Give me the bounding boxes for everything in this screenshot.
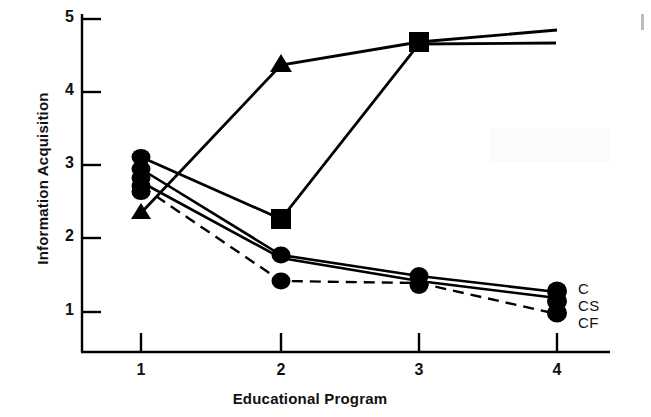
y-tick-label-1: 1: [48, 301, 74, 319]
x-tick-label-3: 3: [404, 361, 434, 379]
series-label-CF: CF: [578, 314, 599, 331]
scan-artifact-top-right: [641, 14, 644, 30]
x-tick-label-4: 4: [542, 361, 572, 379]
marker-group-x2: [270, 54, 292, 290]
data-point-CF-x2: [272, 273, 291, 290]
chart-canvas: [0, 0, 651, 417]
y-tick-label-2: 2: [48, 227, 74, 245]
chart-root: 5 4 3 2 1 1 2 3 4 Information Acquisitio…: [0, 0, 651, 417]
data-point-C-x2: [272, 247, 291, 264]
marker-group-x1: [131, 149, 151, 219]
axes: [81, 14, 610, 352]
x-tick-label-2: 2: [266, 361, 296, 379]
data-point-CF-x1: [132, 184, 151, 200]
marker-group-x3: [409, 32, 429, 294]
series-line-C: [141, 169, 557, 292]
x-axis-title: Educational Program: [180, 390, 440, 407]
y-tick-label-3: 3: [48, 154, 74, 172]
data-point-square-x3: [409, 32, 429, 52]
x-tick-label-1: 1: [126, 361, 156, 379]
series-label-C: C: [578, 280, 589, 297]
y-tick-label-5: 5: [48, 8, 74, 26]
series-line-CF: [141, 186, 557, 314]
marker-group-x4: [547, 282, 567, 323]
series-label-CS: CS: [578, 297, 600, 314]
data-point-CF-x4: [547, 304, 567, 323]
series-line-CS: [141, 182, 557, 298]
data-point-square-x2: [271, 209, 291, 229]
data-point-CS-x3: [410, 276, 429, 294]
y-tick-label-4: 4: [48, 81, 74, 99]
y-axis-title: Information Acquisition: [34, 49, 51, 309]
scan-artifact-edge: [489, 128, 611, 162]
